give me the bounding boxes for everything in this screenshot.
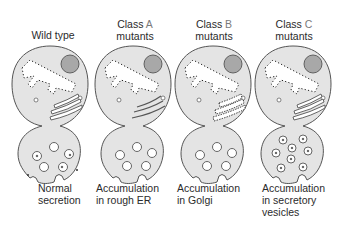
cell-class-c <box>255 46 331 184</box>
cell-wild-type <box>12 46 88 184</box>
caption-line1: Normal <box>38 182 72 194</box>
caption-line2: secretion <box>38 194 81 206</box>
caption-line1: Accumulation <box>96 182 159 194</box>
caption-line2: in Golgi <box>177 194 213 206</box>
caption-line2: in secretory <box>262 194 316 206</box>
caption-class-a: Accumulation in rough ER <box>96 182 159 206</box>
caption-class-b: Accumulation in Golgi <box>177 182 240 206</box>
caption-line1: Accumulation <box>177 182 240 194</box>
cell-class-a <box>95 46 171 184</box>
caption-line1: Accumulation <box>262 182 325 194</box>
caption-class-c: Accumulation in secretory vesicles <box>262 182 325 218</box>
caption-wild-type: Normal secretion <box>38 182 81 206</box>
cell-class-b <box>175 46 251 184</box>
caption-line3: vesicles <box>262 206 299 218</box>
caption-line2: in rough ER <box>96 194 151 206</box>
